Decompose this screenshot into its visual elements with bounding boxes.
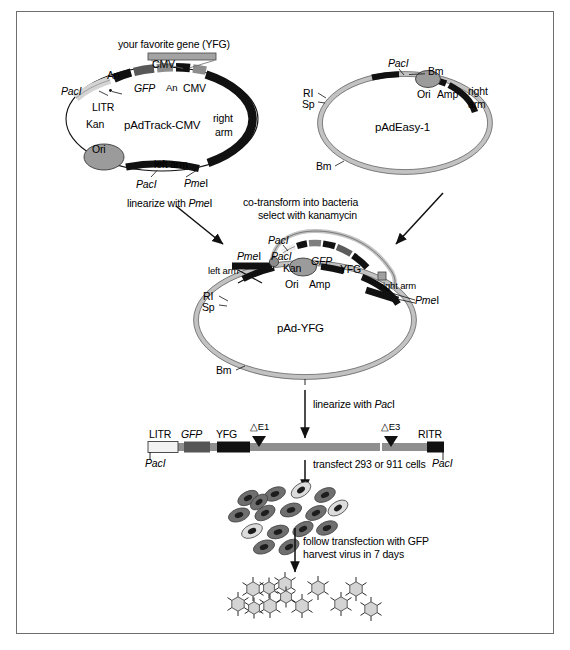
step-cotransform-line2: select with kanamycin	[258, 209, 357, 221]
label-padtrack-pmeI: PmeI	[184, 177, 208, 189]
label-padeasy-name: pAdEasy-1	[375, 121, 430, 135]
step-linearize-pmeI: linearize with PmeI	[127, 197, 212, 209]
label-linear-delta-e3: △E3	[381, 421, 400, 432]
step-cotransform-line1: co-transform into bacteria	[243, 196, 358, 208]
label-padtrack-an-left: An	[107, 69, 120, 81]
label-linear-pacI-left: PacI	[145, 457, 165, 469]
label-padyfg-gfp: GFP	[311, 255, 332, 267]
label-padtrack-an-right: An	[166, 82, 177, 93]
label-padeasy-bm-bottom: Bm	[316, 160, 331, 172]
label-linear-gfp: GFP	[181, 428, 202, 440]
label-linear-delta-e1: △E1	[250, 421, 269, 432]
label-padyfg-right-arm: right arm	[380, 280, 416, 291]
label-padtrack-litr: LITR	[92, 101, 114, 113]
label-padyfg-left-arm: left arm	[208, 265, 238, 276]
label-padeasy-ori: Ori	[417, 88, 431, 100]
label-padtrack-gfp: GFP	[134, 82, 155, 94]
label-padyfg-pacI-top: PacI	[268, 234, 288, 246]
label-padtrack-cmv-left: CMV	[152, 58, 175, 70]
step-linearize-pacI: linearize with PacI	[313, 398, 395, 410]
label-linear-ritr: RITR	[418, 428, 442, 440]
step-transfect: transfect 293 or 911 cells	[313, 458, 426, 470]
label-padtrack-pacI-bottom: PacI	[136, 178, 156, 190]
label-padeasy-amp: Amp	[437, 88, 458, 100]
label-padtrack-right-arm-2: arm	[215, 126, 233, 138]
label-padeasy-pacI: PacI	[388, 57, 408, 69]
label-padyfg-pacI-left: PacI	[271, 250, 291, 262]
label-padtrack-pacI-topleft: PacI	[61, 85, 81, 97]
label-linear-pacI-right: PacI	[432, 457, 452, 469]
figure-root: your favorite gene (YFG) PacI LITR Kan O…	[0, 0, 570, 650]
step-follow-line2: harvest virus in 7 days	[303, 548, 404, 560]
label-linear-yfg: YFG	[216, 428, 237, 440]
label-padyfg-pmeI-right: PmeI	[415, 294, 439, 306]
label-padtrack-cmv-right: CMV	[183, 82, 206, 94]
label-padyfg-kan: Kan	[283, 262, 301, 274]
label-padyfg-name: pAd-YFG	[277, 322, 324, 336]
label-padeasy-bm-top: Bm	[428, 65, 443, 77]
label-padtrack-left-arm: left arm	[154, 158, 188, 170]
label-padyfg-sp: Sp	[202, 301, 215, 313]
label-padyfg-yfg: YFG	[340, 263, 361, 275]
label-padyfg-pmeI-left: PmeI	[237, 250, 261, 262]
label-padeasy-sp: Sp	[302, 98, 315, 110]
label-padyfg-bm: Bm	[216, 364, 231, 376]
label-padtrack-right-arm-1: right	[213, 112, 233, 124]
label-padtrack-kan: Kan	[86, 118, 104, 130]
step-follow-line1: follow transfection with GFP	[303, 535, 429, 547]
label-padyfg-amp: Amp	[309, 278, 330, 290]
label-padtrack-name: pAdTrack-CMV	[124, 119, 200, 133]
label-linear-litr: LITR	[149, 428, 171, 440]
label-yfg-banner: your favorite gene (YFG)	[118, 38, 230, 50]
label-padeasy-right-arm-2: arm	[468, 98, 486, 110]
label-padtrack-ori: Ori	[92, 143, 106, 155]
label-padyfg-ori: Ori	[285, 278, 299, 290]
label-padeasy-right-arm-1: right	[468, 85, 488, 97]
